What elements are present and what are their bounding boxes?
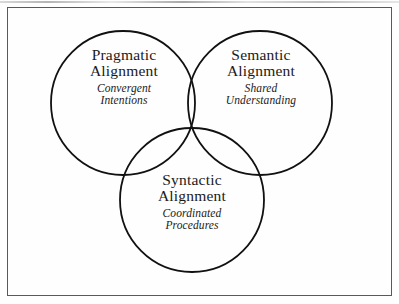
venn-label-pragmatic-title-line2: Alignment	[54, 63, 194, 79]
venn-label-semantic-subtitle-line2: Understanding	[191, 94, 331, 106]
venn-label-syntactic: Syntactic Alignment Coordinated Procedur…	[122, 172, 262, 231]
venn-label-pragmatic-subtitle-line1: Convergent	[54, 82, 194, 94]
venn-label-pragmatic-subtitle-line2: Intentions	[54, 94, 194, 106]
venn-label-pragmatic-title-line1: Pragmatic	[54, 47, 194, 63]
venn-label-syntactic-subtitle-line1: Coordinated	[122, 207, 262, 219]
venn-diagram	[0, 0, 399, 304]
venn-label-syntactic-subtitle-line2: Procedures	[122, 219, 262, 231]
venn-label-semantic-title-line1: Semantic	[191, 47, 331, 63]
venn-label-semantic: Semantic Alignment Shared Understanding	[191, 47, 331, 106]
venn-label-syntactic-title-line1: Syntactic	[122, 172, 262, 188]
venn-label-pragmatic: Pragmatic Alignment Convergent Intention…	[54, 47, 194, 106]
venn-label-semantic-title-line2: Alignment	[191, 63, 331, 79]
venn-label-semantic-subtitle-line1: Shared	[191, 82, 331, 94]
figure-page: Pragmatic Alignment Convergent Intention…	[0, 0, 399, 304]
venn-label-syntactic-title-line2: Alignment	[122, 188, 262, 204]
